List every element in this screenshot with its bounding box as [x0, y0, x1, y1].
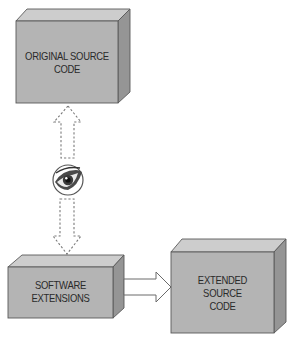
box-side-face	[274, 239, 286, 333]
label-line: CODE	[21, 63, 113, 76]
box-top-face	[8, 255, 124, 267]
label-line: CODE	[176, 300, 269, 313]
label-line: SOFTWARE	[13, 279, 108, 292]
extended-source-code-label: EXTENDED SOURCE CODE	[176, 274, 269, 313]
dashed-down-arrow	[53, 199, 81, 254]
software-extensions-label: SOFTWARE EXTENSIONS	[13, 279, 108, 305]
label-line: SOURCE	[176, 287, 269, 300]
box-top-face	[171, 239, 286, 252]
label-line: EXTENSIONS	[13, 292, 108, 305]
box-top-face	[16, 9, 130, 21]
label-line: EXTENDED	[176, 274, 269, 287]
dashed-up-arrow	[54, 106, 81, 158]
label-line: ORIGINAL SOURCE	[21, 50, 113, 63]
solid-right-arrow	[124, 272, 171, 302]
original-source-code-label: ORIGINAL SOURCE CODE	[21, 50, 113, 76]
eye-icon	[53, 165, 83, 195]
box-side-face	[118, 9, 130, 103]
